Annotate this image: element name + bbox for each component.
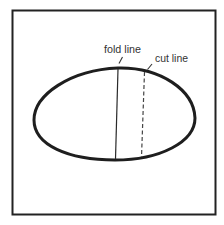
fold-line-leader xyxy=(119,57,123,64)
square-frame xyxy=(13,11,216,215)
cut-line xyxy=(142,72,145,157)
cut-line-label: cut line xyxy=(155,52,188,64)
fold-cut-diagram: fold line cut line xyxy=(0,0,224,225)
fold-line-label: fold line xyxy=(104,43,141,55)
fold-line xyxy=(116,69,119,159)
cut-line-leader xyxy=(148,64,153,70)
oval-outline xyxy=(34,68,195,160)
